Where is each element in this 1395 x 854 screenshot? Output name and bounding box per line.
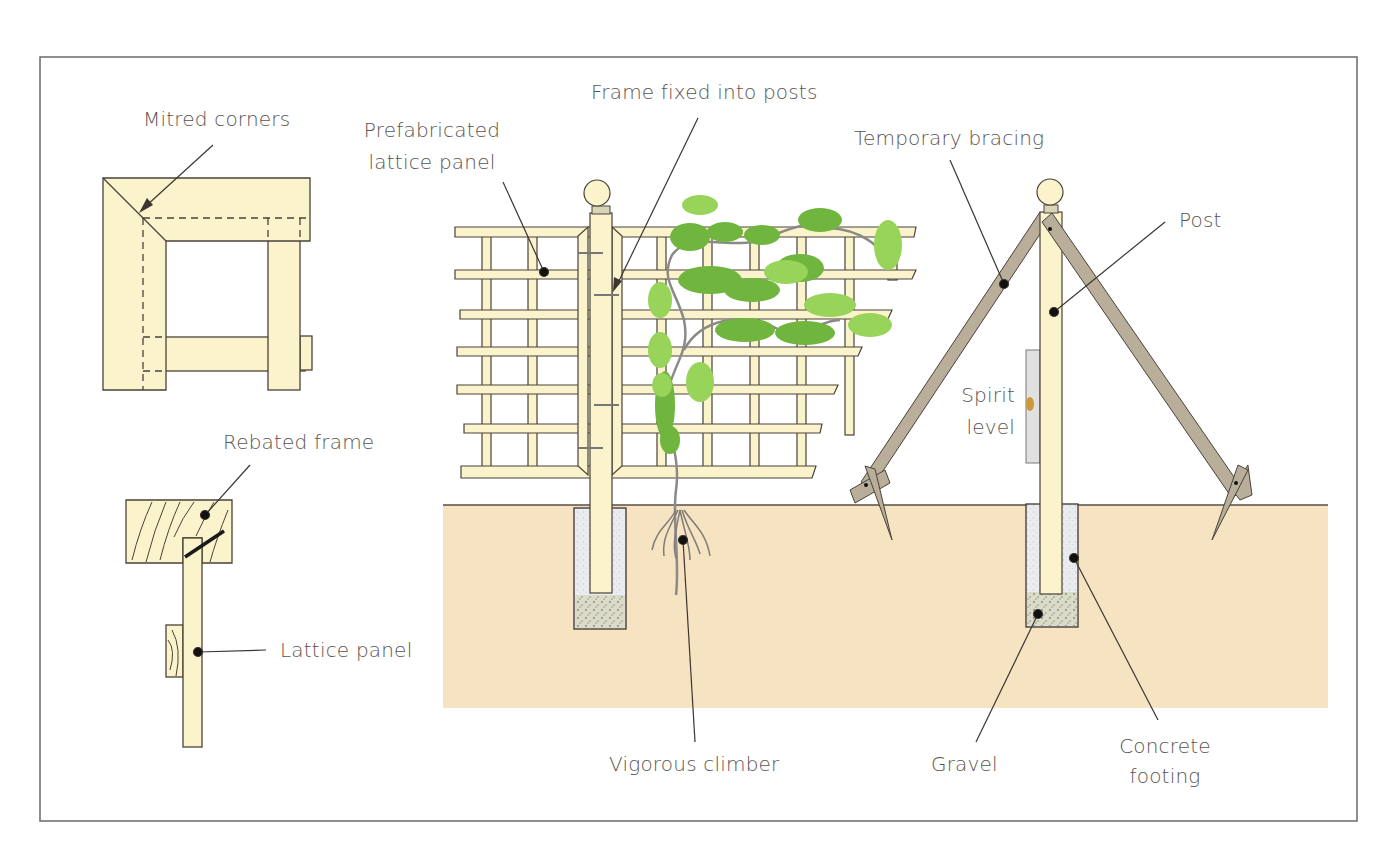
- label-concrete-line1: Concrete: [1100, 733, 1230, 760]
- label-concrete-footing: Concrete footing: [1100, 733, 1230, 790]
- trellis-diagram: Mitred corners Rebated frame Lattice pan…: [0, 0, 1395, 854]
- label-lattice-panel: Lattice panel: [280, 637, 412, 664]
- label-spirit-line2: level: [945, 414, 1015, 441]
- label-concrete-line2: footing: [1100, 763, 1230, 790]
- label-rebated-frame: Rebated frame: [223, 429, 374, 456]
- label-spirit-level: Spirit level: [945, 382, 1015, 441]
- label-frame-fixed-into-posts: Frame fixed into posts: [591, 79, 818, 106]
- label-prefab-line1: Prefabricated: [352, 117, 512, 144]
- mitred-corner-detail: [103, 178, 312, 390]
- label-gravel: Gravel: [931, 751, 998, 778]
- label-prefab-line2: lattice panel: [352, 149, 512, 176]
- label-temporary-bracing: Temporary bracing: [854, 125, 1044, 152]
- label-mitred-corners: Mitred corners: [143, 106, 290, 133]
- label-spirit-line1: Spirit: [945, 382, 1015, 409]
- lattice-panel: [455, 227, 916, 478]
- lattice-panel-leader: [194, 648, 267, 657]
- label-prefabricated-lattice-panel: Prefabricated lattice panel: [352, 117, 512, 176]
- temporary-bracing-leader: [950, 160, 1009, 289]
- label-vigorous-climber: Vigorous climber: [609, 751, 780, 778]
- label-post: Post: [1179, 207, 1222, 234]
